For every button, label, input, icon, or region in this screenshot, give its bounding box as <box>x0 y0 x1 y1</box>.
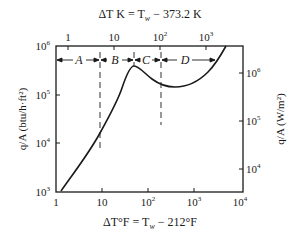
left-axis-title: q/A (btu/h·ft²) <box>16 88 29 151</box>
left-axis-ticks: 106 105 104 103 <box>36 39 51 198</box>
svg-text:104: 104 <box>36 136 51 149</box>
svg-text:106: 106 <box>246 66 261 79</box>
top-axis-title: ΔT K = Tw − 373.2 K <box>98 7 202 23</box>
svg-text:105: 105 <box>36 88 51 101</box>
svg-text:102: 102 <box>141 195 156 208</box>
svg-text:104: 104 <box>233 195 248 208</box>
svg-text:106: 106 <box>36 39 51 52</box>
region-label-a: A <box>74 53 83 67</box>
svg-text:103: 103 <box>199 30 214 43</box>
svg-text:1: 1 <box>65 31 71 43</box>
region-boundaries <box>100 52 161 150</box>
svg-text:1: 1 <box>53 196 59 208</box>
bottom-axis-title: ΔT°F = Tw − 212°F <box>103 215 197 231</box>
svg-text:102: 102 <box>153 30 168 43</box>
right-axis-title: q/A (W/m²) <box>274 93 287 145</box>
svg-text:10: 10 <box>97 196 109 208</box>
right-axis-ticks: 106 105 104 <box>246 66 261 175</box>
svg-text:103: 103 <box>187 195 202 208</box>
svg-text:105: 105 <box>246 114 261 127</box>
boiling-curve-line <box>61 46 226 191</box>
boiling-curve-chart: ΔT K = Tw − 373.2 K 1 10 102 103 106 105… <box>0 0 301 239</box>
top-axis-ticks: 1 10 102 103 <box>65 30 214 43</box>
region-label-b: B <box>111 53 119 67</box>
bottom-axis-ticks: 1 10 102 103 104 <box>53 195 248 208</box>
svg-text:103: 103 <box>36 185 51 198</box>
svg-text:10: 10 <box>109 31 121 43</box>
region-label-c: C <box>142 53 151 67</box>
region-label-d: D <box>180 53 190 67</box>
svg-text:104: 104 <box>246 162 261 175</box>
plot-frame <box>56 46 243 192</box>
